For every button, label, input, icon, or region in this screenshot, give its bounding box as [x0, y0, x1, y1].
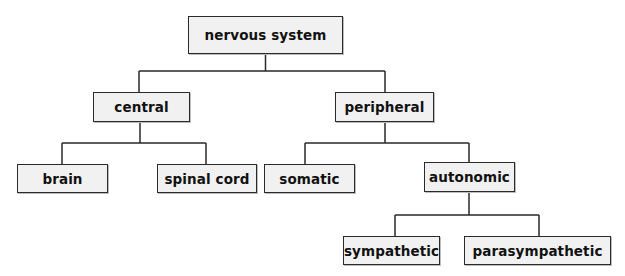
connector-autonomic — [395, 192, 539, 236]
node-label: somatic — [279, 171, 339, 187]
node-parasympathetic: parasympathetic — [464, 236, 611, 265]
node-label: peripheral — [345, 99, 425, 115]
node-label: spinal cord — [164, 171, 249, 187]
node-nervous-system: nervous system — [188, 16, 343, 54]
connector-peripheral — [305, 122, 469, 164]
connector-central — [62, 122, 206, 164]
node-sympathetic: sympathetic — [343, 236, 440, 265]
node-label: autonomic — [429, 169, 510, 185]
node-autonomic: autonomic — [424, 162, 515, 192]
node-brain: brain — [17, 164, 108, 193]
node-label: central — [114, 99, 168, 115]
node-peripheral: peripheral — [335, 92, 434, 122]
node-label: brain — [42, 171, 82, 187]
node-label: parasympathetic — [472, 243, 602, 259]
node-label: nervous system — [205, 27, 327, 43]
node-spinal-cord: spinal cord — [157, 164, 257, 193]
node-somatic: somatic — [264, 164, 355, 193]
node-central: central — [93, 92, 190, 122]
connector-root — [139, 54, 385, 92]
node-label: sympathetic — [344, 243, 439, 259]
